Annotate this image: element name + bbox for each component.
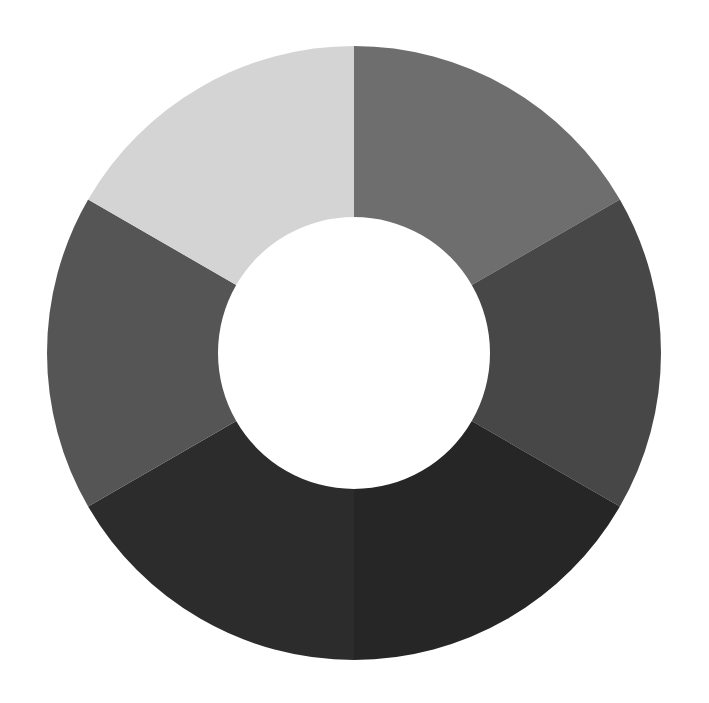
donut-segments bbox=[47, 46, 661, 660]
donut-chart bbox=[0, 0, 709, 703]
